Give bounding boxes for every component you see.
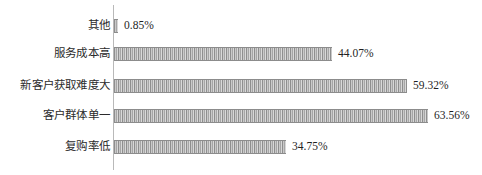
bar-row: 其他 0.85% [0,10,482,41]
bar[interactable] [114,109,428,123]
bar-value-label: 0.85% [124,20,154,32]
bar-value-label: 63.56% [434,110,469,122]
bar-row: 新客户获取难度大 59.32% [0,70,482,101]
bar-group: 63.56% [114,109,469,123]
bar[interactable] [114,19,118,33]
bar[interactable] [114,79,407,93]
category-label: 新客户获取难度大 [20,80,110,92]
category-label: 其他 [88,20,110,32]
bar-row: 客户群体单一 63.56% [0,100,482,131]
bar-value-label: 34.75% [292,141,327,153]
horizontal-bar-chart: 其他 0.85% 服务成本高 44.07% 新客户获取难度大 59.32% 客户… [0,0,482,175]
bar-value-label: 44.07% [338,48,373,60]
category-label: 客户群体单一 [43,110,110,122]
bar-row: 复购率低 34.75% [0,131,482,162]
bar-row: 服务成本高 44.07% [0,38,482,69]
bar-group: 34.75% [114,140,327,154]
bar-group: 59.32% [114,79,448,93]
bar-value-label: 59.32% [413,80,448,92]
bar[interactable] [114,47,332,61]
category-label: 服务成本高 [54,48,110,60]
category-label: 复购率低 [65,141,110,153]
bar-group: 44.07% [114,47,373,61]
bar-group: 0.85% [114,19,154,33]
bar[interactable] [114,140,286,154]
